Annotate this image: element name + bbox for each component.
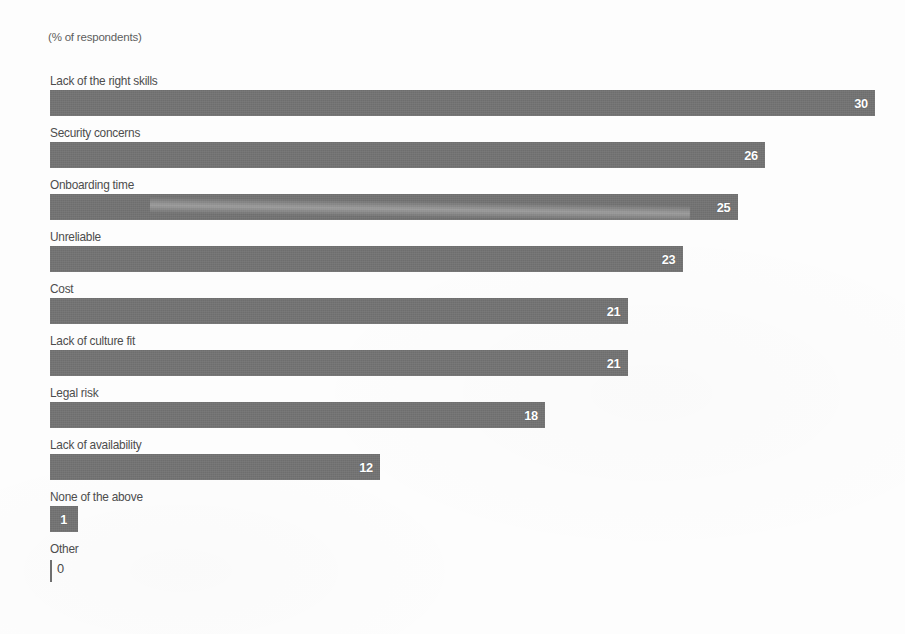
bar-category-label: None of the above <box>50 490 143 504</box>
bar-value-label: 30 <box>854 96 868 111</box>
bar-texture <box>50 90 875 116</box>
bar-texture <box>50 246 683 272</box>
bar-value-label: 21 <box>607 304 621 319</box>
bar-value-label: 12 <box>359 460 373 475</box>
bar-category-label: Unreliable <box>50 230 101 244</box>
bar-value-label: 23 <box>662 252 676 267</box>
bar-category-label: Onboarding time <box>50 178 134 192</box>
bar-value-label: 21 <box>607 356 621 371</box>
bar-category-label: Other <box>50 542 78 556</box>
bar-category-label: Lack of availability <box>50 438 141 452</box>
bar-texture <box>50 350 628 376</box>
bar-texture <box>50 194 738 220</box>
bar-texture <box>50 298 628 324</box>
bar: 25 <box>50 194 738 220</box>
bar: 1 <box>50 506 78 532</box>
bar-category-label: Legal risk <box>50 386 98 400</box>
bar: 23 <box>50 246 683 272</box>
bar-chart-plot-area: Lack of the right skills30Security conce… <box>0 0 905 634</box>
bar: 18 <box>50 402 545 428</box>
bar-category-label: Security concerns <box>50 126 140 140</box>
bar: 21 <box>50 350 628 376</box>
bar-value-label: 26 <box>744 148 758 163</box>
bar-category-label: Lack of culture fit <box>50 334 135 348</box>
bar-texture <box>50 142 765 168</box>
bar-value-label: 18 <box>524 408 538 423</box>
bar-value-label: 0 <box>57 561 64 576</box>
bar: 30 <box>50 90 875 116</box>
zero-baseline-tick <box>50 560 52 582</box>
bar-texture <box>50 402 545 428</box>
bar: 26 <box>50 142 765 168</box>
bar-value-label: 25 <box>717 200 731 215</box>
bar: 21 <box>50 298 628 324</box>
bar-category-label: Lack of the right skills <box>50 74 158 88</box>
bar-texture <box>50 454 380 480</box>
chart-page: (% of respondents) Lack of the right ski… <box>0 0 905 634</box>
bar-category-label: Cost <box>50 282 73 296</box>
bar-value-label: 1 <box>50 512 78 527</box>
bar: 12 <box>50 454 380 480</box>
